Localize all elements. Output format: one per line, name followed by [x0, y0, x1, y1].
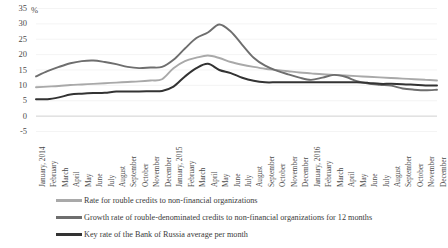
legend-swatch-key-rate — [56, 233, 82, 235]
chart-legend: Rate for rouble credits to non-financial… — [56, 192, 440, 243]
legend-swatch-rate — [56, 199, 82, 201]
legend-swatch-growth-rate — [56, 216, 82, 218]
legend-label-key-rate: Key rate of the Bank of Russia average p… — [84, 230, 248, 239]
series-line — [36, 24, 437, 90]
legend-label-growth-rate: Growth rate of rouble-denominated credit… — [84, 213, 372, 222]
series-line — [36, 64, 437, 100]
legend-label-rate: Rate for rouble credits to non-financial… — [84, 196, 258, 205]
legend-item-growth-rate: Growth rate of rouble-denominated credit… — [56, 209, 440, 226]
legend-item-key-rate: Key rate of the Bank of Russia average p… — [56, 226, 440, 243]
x-axis-tick-label: December — [440, 157, 448, 187]
legend-item-rate: Rate for rouble credits to non-financial… — [56, 192, 440, 209]
